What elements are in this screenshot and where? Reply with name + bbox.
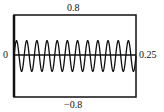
- x-min-label: 0: [3, 50, 8, 60]
- x-max-label: 0.25: [139, 50, 157, 60]
- y-max-label: 0.8: [67, 3, 80, 13]
- signal-line: [14, 41, 136, 72]
- y-min-label: −0.8: [64, 100, 82, 110]
